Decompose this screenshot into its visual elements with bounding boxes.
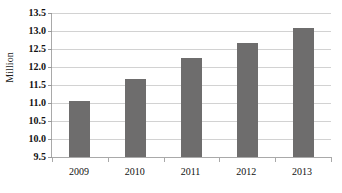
x-axis-tick-label: 2013 [274, 166, 330, 178]
x-axis-tick-mark [275, 157, 276, 162]
y-axis-tick-label: 10.5 [0, 116, 46, 126]
y-axis-tick-label: 13.5 [0, 8, 46, 18]
bar [293, 28, 314, 157]
y-axis-tick-label: 12.5 [0, 44, 46, 54]
bar [181, 58, 202, 157]
x-axis-tick-label: 2011 [163, 166, 219, 178]
bar [237, 43, 258, 157]
y-axis-tick-label: 11.0 [0, 98, 46, 108]
x-axis-tick-label: 2009 [51, 166, 107, 178]
y-axis-tick-label: 12.0 [0, 62, 46, 72]
x-axis-tick-mark [219, 157, 220, 162]
x-axis-tick-mark [52, 157, 53, 162]
x-axis-tick-label: 2012 [218, 166, 274, 178]
bar [125, 79, 146, 157]
y-axis-tick-label: 9.5 [0, 152, 46, 162]
bars-group [52, 13, 331, 157]
y-axis-tick-label: 11.5 [0, 80, 46, 90]
y-axis-tick-label: 13.0 [0, 26, 46, 36]
y-axis-tick-labels: 13.513.012.512.011.511.010.510.09.5 [0, 0, 46, 193]
y-axis-tick-label: 10.0 [0, 134, 46, 144]
x-axis-tick-labels: 20092010201120122013 [51, 166, 330, 182]
bar-chart: Million 13.513.012.512.011.511.010.510.0… [0, 0, 342, 193]
x-axis-tick-mark [108, 157, 109, 162]
plot-area [51, 13, 331, 158]
bar [69, 101, 90, 157]
x-axis-tick-label: 2010 [107, 166, 163, 178]
x-axis-tick-mark [331, 157, 332, 162]
gridline [52, 157, 331, 158]
x-axis-tick-mark [164, 157, 165, 162]
